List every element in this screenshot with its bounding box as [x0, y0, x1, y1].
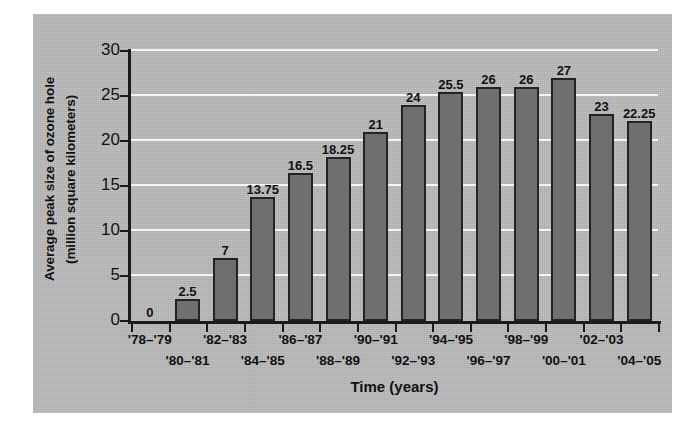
bar-slot: 18.25: [319, 51, 357, 321]
x-tick-mark: [470, 324, 472, 332]
bar-value-label: 2.5: [178, 284, 196, 299]
y-tick-label: 25: [80, 85, 120, 105]
y-tick-mark: [120, 320, 128, 322]
y-tick-mark: [120, 50, 128, 52]
bar[interactable]: 21: [363, 132, 388, 321]
bar[interactable]: 27: [551, 78, 576, 321]
plot-area: 02.5713.7516.518.25212425.52626272322.25: [131, 51, 658, 321]
x-tick-mark: [658, 324, 660, 332]
x-tick-mark: [432, 324, 434, 332]
x-tick-mark: [131, 324, 133, 332]
bar[interactable]: 26: [514, 87, 539, 321]
bar-value-label: 24: [406, 90, 420, 105]
y-tick-mark: [120, 275, 128, 277]
bar[interactable]: 2.5: [175, 299, 200, 322]
x-tick-mark: [169, 324, 171, 332]
bar-slot: 26: [507, 51, 545, 321]
x-tick-label: '98–'99: [504, 332, 548, 347]
x-tick-mark: [282, 324, 284, 332]
y-tick-label: 0: [80, 310, 120, 330]
bar-value-label: 13.75: [246, 182, 279, 197]
x-tick-label: '92–'93: [391, 353, 435, 368]
x-tick-label: '88–'89: [316, 353, 360, 368]
x-tick-label: '00–'01: [542, 353, 586, 368]
bar[interactable]: 18.25: [326, 157, 351, 321]
bar-slot: 7: [206, 51, 244, 321]
y-tick-label: 15: [80, 175, 120, 195]
bar-slot: 22.25: [620, 51, 658, 321]
x-tick-mark: [357, 324, 359, 332]
y-tick-mark: [120, 230, 128, 232]
bar-slot: 25.5: [432, 51, 470, 321]
bar-value-label: 21: [368, 117, 382, 132]
bar-value-label: 22.25: [623, 106, 656, 121]
bar-slot: 21: [357, 51, 395, 321]
y-axis-ticks: 051015202530: [72, 0, 120, 431]
bar-slot: 2.5: [169, 51, 207, 321]
bar-value-label: 0: [146, 305, 153, 320]
y-tick-label: 30: [80, 40, 120, 60]
bar[interactable]: 24: [401, 105, 426, 321]
bar-slot: 16.5: [282, 51, 320, 321]
x-tick-mark: [620, 324, 622, 332]
bar-slot: 23: [583, 51, 621, 321]
x-tick-mark: [507, 324, 509, 332]
bar-value-label: 26: [519, 72, 533, 87]
x-tick-label: '86–'87: [278, 332, 322, 347]
bar[interactable]: 22.25: [627, 121, 652, 321]
bar-value-label: 27: [557, 63, 571, 78]
x-tick-mark: [244, 324, 246, 332]
x-tick-mark: [545, 324, 547, 332]
x-tick-label: '78–'79: [128, 332, 172, 347]
bar-slot: 13.75: [244, 51, 282, 321]
x-tick-label: '80–'81: [165, 353, 209, 368]
y-tick-label: 20: [80, 130, 120, 150]
chart-figure: Average peak size of ozone hole (million…: [0, 0, 700, 431]
bar[interactable]: 23: [589, 114, 614, 321]
x-tick-mark: [395, 324, 397, 332]
x-tick-label: '94–'95: [429, 332, 473, 347]
x-tick-label: '04–'05: [617, 353, 661, 368]
x-tick-label: '96–'97: [467, 353, 511, 368]
x-tick-mark: [583, 324, 585, 332]
bar-value-label: 18.25: [322, 142, 355, 157]
bar-value-label: 26: [481, 72, 495, 87]
bar[interactable]: 25.5: [438, 92, 463, 322]
bar-value-label: 23: [594, 99, 608, 114]
bar[interactable]: 13.75: [250, 197, 275, 321]
bar-slot: 24: [395, 51, 433, 321]
bar-slot: 27: [545, 51, 583, 321]
y-tick-mark: [120, 95, 128, 97]
x-tick-label: '84–'85: [241, 353, 285, 368]
bar[interactable]: 7: [213, 258, 238, 321]
bar-slot: 26: [470, 51, 508, 321]
x-tick-label: '02–'03: [580, 332, 624, 347]
y-tick-label: 10: [80, 220, 120, 240]
y-tick-mark: [120, 140, 128, 142]
bar-value-label: 16.5: [288, 158, 313, 173]
bar-slot: 0: [131, 51, 169, 321]
x-tick-mark: [206, 324, 208, 332]
bar[interactable]: 26: [476, 87, 501, 321]
x-tick-label: '82–'83: [203, 332, 247, 347]
x-tick-mark: [319, 324, 321, 332]
y-tick-label: 5: [80, 265, 120, 285]
y-tick-mark: [120, 185, 128, 187]
x-tick-label: '90–'91: [354, 332, 398, 347]
bar-value-label: 7: [221, 243, 228, 258]
bar-value-label: 25.5: [438, 77, 463, 92]
bar[interactable]: 16.5: [288, 173, 313, 322]
x-axis-title: Time (years): [131, 378, 658, 395]
x-axis-tick-labels: '78–'79'80–'81'82–'83'84–'85'86–'87'88–'…: [120, 332, 680, 378]
y-axis-title-line-1: Average peak size of ozone hole: [38, 14, 60, 344]
